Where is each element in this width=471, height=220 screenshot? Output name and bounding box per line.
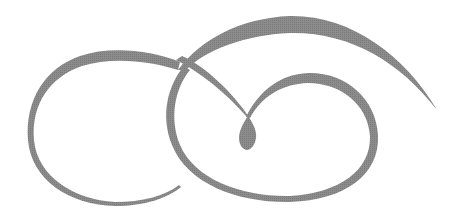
inner-loop (166, 66, 378, 202)
teardrop (239, 116, 256, 150)
left-swirl (28, 50, 181, 206)
top-arc (178, 16, 437, 110)
flourish-ornament (0, 0, 471, 220)
flourish-canvas: Decorative calligraphic flourish ornamen… (0, 0, 471, 220)
